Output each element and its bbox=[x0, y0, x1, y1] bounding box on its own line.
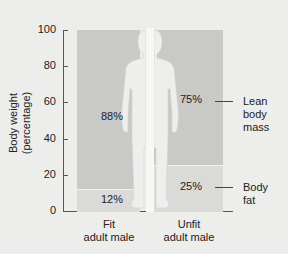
legend-body-fat: Body fat bbox=[243, 181, 268, 207]
y-tick bbox=[63, 102, 68, 103]
y-tick-label: 0 bbox=[34, 204, 56, 216]
legend-text: fat bbox=[243, 194, 268, 207]
category-fit: Fit adult male bbox=[70, 218, 148, 244]
category-text: adult male bbox=[150, 231, 228, 244]
y-tick bbox=[63, 139, 68, 140]
legend-text: Body bbox=[243, 181, 268, 194]
legend-text: mass bbox=[243, 121, 269, 134]
y-axis-line bbox=[63, 30, 64, 211]
y-tick-label: 20 bbox=[34, 168, 56, 180]
label-unfit-lean: 75% bbox=[180, 93, 202, 105]
label-fit-fat: 12% bbox=[101, 193, 123, 205]
y-tick bbox=[63, 175, 68, 176]
category-unfit: Unfit adult male bbox=[150, 218, 228, 244]
y-tick bbox=[63, 30, 68, 31]
category-text: Unfit bbox=[150, 218, 228, 231]
legend-text: body bbox=[243, 108, 269, 121]
y-axis-label-line1: Body weight bbox=[7, 83, 20, 163]
label-fit-lean: 88% bbox=[101, 110, 123, 122]
legend-line-fat bbox=[215, 187, 233, 188]
legend-text: Lean bbox=[243, 95, 269, 108]
y-tick-label: 100 bbox=[34, 23, 56, 35]
y-tick bbox=[63, 66, 68, 67]
legend-lean-body-mass: Lean body mass bbox=[243, 95, 269, 134]
category-text: adult male bbox=[70, 231, 148, 244]
y-tick-label: 40 bbox=[34, 132, 56, 144]
y-tick-label: 60 bbox=[34, 95, 56, 107]
category-text: Fit bbox=[70, 218, 148, 231]
y-axis-label: Body weight (percentage) bbox=[7, 83, 33, 163]
legend-line-lean bbox=[215, 101, 233, 102]
label-unfit-fat: 25% bbox=[180, 180, 202, 192]
y-tick-label: 80 bbox=[34, 59, 56, 71]
y-axis-label-line2: (percentage) bbox=[20, 83, 33, 163]
